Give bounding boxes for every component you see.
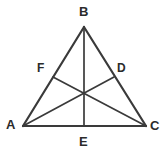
point-label-f: F (37, 62, 44, 75)
segment-bc (84, 27, 146, 126)
vertex-label-b: B (79, 5, 88, 18)
triangle-diagram-svg (0, 0, 164, 156)
point-label-d: D (117, 62, 126, 75)
point-label-e: E (79, 135, 88, 148)
vertex-label-a: A (6, 118, 15, 131)
vertex-label-c: C (150, 119, 159, 132)
geometry-figure: B A C F D E (0, 0, 164, 156)
